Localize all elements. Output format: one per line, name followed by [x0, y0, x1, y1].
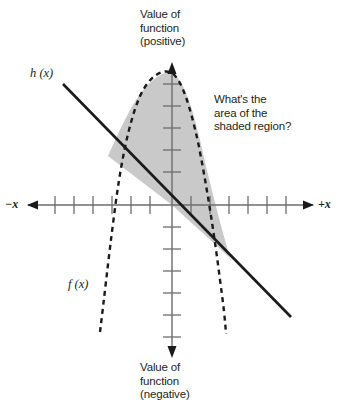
math-figure: Value of function (positive) Value of fu…	[0, 0, 343, 419]
h-function-label: h (x)	[30, 66, 53, 81]
question-annotation: What's the area of the shaded region?	[214, 93, 291, 134]
positive-x-axis-label: +x	[318, 197, 331, 212]
graph-canvas	[0, 0, 343, 419]
shaded-region	[108, 73, 230, 258]
y-axis-negative-caption: Value of function (negative)	[140, 361, 190, 402]
f-function-label: f (x)	[68, 277, 88, 292]
negative-x-axis-label: −x	[5, 197, 18, 212]
y-axis-positive-caption: Value of function (positive)	[140, 8, 185, 49]
